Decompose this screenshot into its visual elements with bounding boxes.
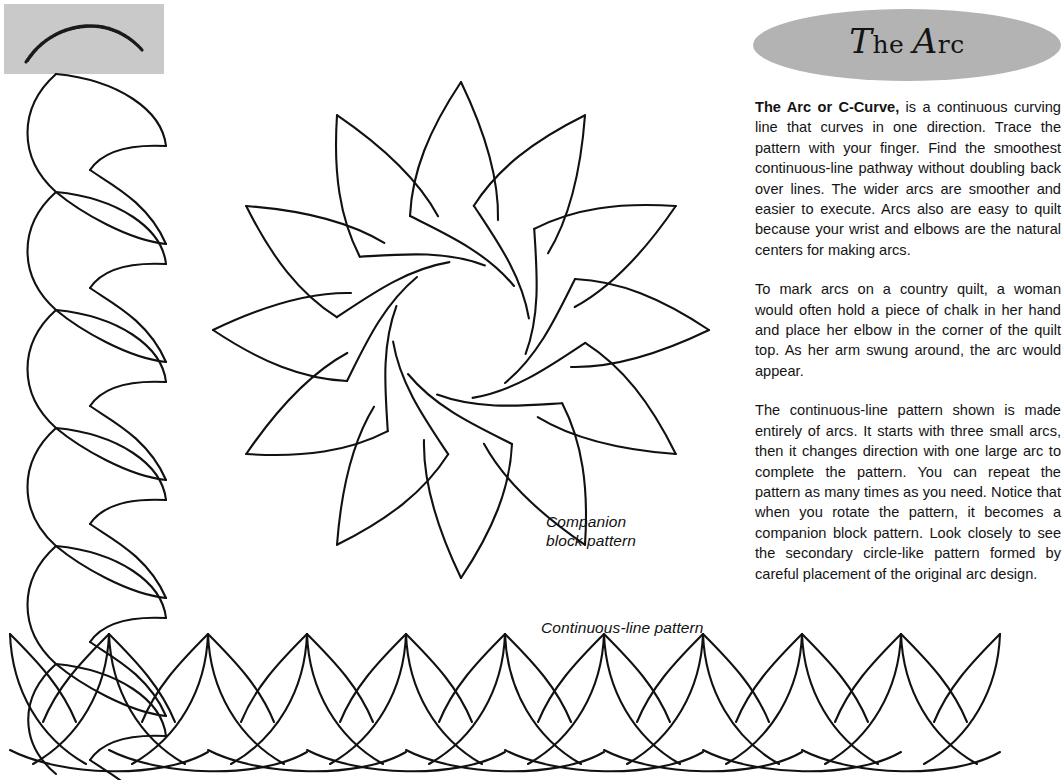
paragraph-2: To mark arcs on a country quilt, a woman…	[755, 279, 1061, 381]
paragraph-3: The continuous-line pattern shown is mad…	[755, 400, 1061, 584]
title-rc: rc	[938, 30, 965, 59]
title-cap-a: A	[913, 21, 938, 61]
paragraph-1-text: is a continuous curving line that curves…	[755, 99, 1061, 258]
hand-drawn-arc-sketch-swatch	[4, 4, 164, 74]
page-title: The Arc	[753, 30, 1061, 59]
companion-block-wreath-artwork	[196, 68, 726, 593]
article-body: The Arc or C-Curve, is a continuous curv…	[755, 97, 1061, 584]
wreath-petals	[213, 82, 709, 578]
paragraph-1-lead-in: The Arc or C-Curve,	[755, 99, 899, 115]
title-cap-t: T	[849, 21, 872, 61]
continuous-line-caption: Continuous-line pattern	[541, 618, 704, 637]
paragraph-1: The Arc or C-Curve, is a continuous curv…	[755, 97, 1061, 260]
title-he: he	[872, 30, 912, 59]
title-banner: The Arc	[753, 9, 1061, 81]
companion-caption-line-2: block pattern	[546, 531, 636, 550]
companion-caption-line-1: Companion	[546, 512, 636, 531]
companion-block-caption: Companion block pattern	[546, 512, 636, 550]
arc-sketch-icon	[4, 4, 164, 74]
article-column: The Arc The Arc or C-Curve, is a continu…	[753, 0, 1061, 773]
